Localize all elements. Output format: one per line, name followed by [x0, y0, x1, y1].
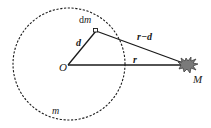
- label-M: M: [193, 74, 202, 85]
- label-dm: dm: [79, 15, 91, 25]
- label-m: m: [52, 106, 59, 116]
- label-r-minus-d: r−d: [137, 32, 152, 42]
- mass-element-icon: [94, 29, 98, 33]
- label-d: d: [76, 38, 81, 48]
- edge-d: [68, 31, 96, 65]
- label-O: O: [59, 62, 67, 73]
- diagram-svg: [0, 0, 211, 128]
- label-r: r: [133, 55, 137, 65]
- point-mass-icon: [178, 57, 198, 73]
